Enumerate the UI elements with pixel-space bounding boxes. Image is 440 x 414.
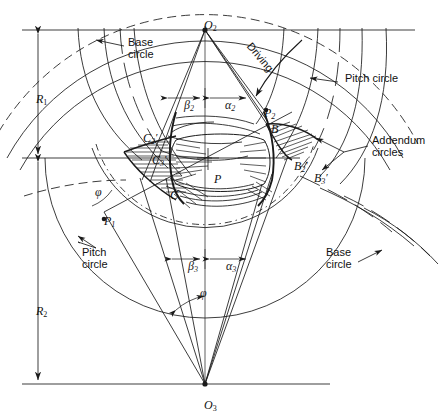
- tooth-space-top: [176, 134, 264, 140]
- label-angle-alpha3: α3: [220, 247, 236, 275]
- callout-pitch-circle-bottom-left: Pitch circle: [82, 246, 108, 271]
- callout-base-circle-bottom-right: Base circle: [326, 246, 352, 271]
- label-point-B3-prime: B3′: [308, 158, 328, 187]
- label-center-O3: O3: [198, 386, 217, 414]
- label-point-B: B: [265, 110, 278, 137]
- label-point-B2-prime: B2′: [288, 146, 308, 175]
- label-angle-phi-lower: φ: [200, 287, 207, 300]
- label-center-O2: O2: [198, 6, 217, 34]
- label-point-C: C: [164, 176, 178, 203]
- label-point-C3-prime: C3′: [146, 140, 166, 169]
- label-radius-R2: R2: [30, 292, 47, 320]
- label-angle-beta2: β2: [178, 86, 194, 114]
- callout-base-circle-top-left: Base circle: [128, 36, 154, 61]
- label-point-P: P: [208, 160, 221, 187]
- hatch-inner-left: [176, 144, 212, 180]
- callout-pitch-circle-top-right: Pitch circle: [345, 72, 398, 84]
- tooth-space-right: [264, 140, 270, 184]
- label-angle-phi-upper: φ: [95, 186, 102, 199]
- label-radius-R1: R1: [30, 80, 47, 108]
- gear2-flank-arcs-lower-right: [300, 176, 438, 264]
- callout-addendum-circles: Addendum circles: [372, 134, 425, 159]
- leader-base-circle-bottom: [358, 250, 382, 262]
- label-angle-beta3: β3: [182, 247, 198, 275]
- hatch-inner-right: [238, 142, 266, 182]
- leader-base-circle-top: [96, 40, 124, 46]
- label-angle-alpha2: α2: [219, 86, 235, 114]
- leader-pitch-circle-top: [310, 78, 338, 82]
- label-point-P1: P1: [98, 202, 115, 230]
